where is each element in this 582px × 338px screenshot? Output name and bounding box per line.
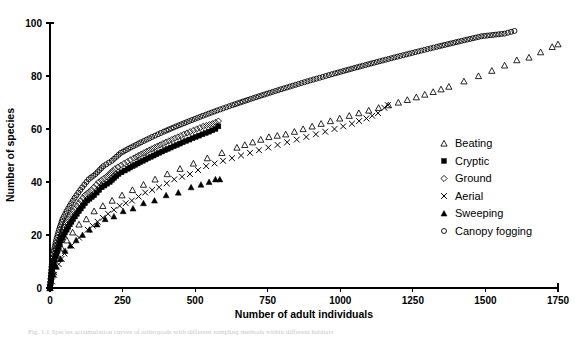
data-point-open-triangle [164, 171, 170, 177]
legend-label: Canopy fogging [455, 225, 532, 237]
y-tick-label: 40 [31, 177, 43, 188]
data-point-open-diamond [215, 118, 221, 124]
data-point-open-circle [505, 30, 510, 35]
data-point-open-triangle [489, 68, 495, 74]
data-point-filled-triangle [188, 184, 194, 190]
data-point-open-triangle [234, 144, 240, 150]
legend-label: Aerial [455, 190, 483, 202]
data-point-open-triangle [514, 57, 520, 63]
data-point-open-diamond [206, 121, 212, 127]
data-point-open-triangle [204, 155, 210, 161]
data-point-open-triangle [441, 140, 447, 146]
data-point-cross-x [256, 147, 262, 153]
data-point-cross-x [369, 113, 375, 119]
data-point-cross-x [136, 194, 142, 200]
legend-item-canopy-fogging[interactable]: Canopy fogging [442, 225, 533, 237]
data-point-open-diamond [441, 175, 447, 181]
data-point-cross-x [187, 171, 193, 177]
data-point-open-triangle [413, 94, 419, 100]
data-point-open-triangle [346, 113, 352, 119]
data-point-open-diamond [200, 123, 206, 129]
legend-marker-open-triangle-icon [441, 140, 447, 146]
data-point-open-triangle [91, 208, 97, 214]
data-point-open-triangle [376, 105, 382, 111]
data-point-filled-triangle [120, 208, 126, 214]
x-tick-label: 750 [259, 295, 276, 306]
y-tick-label: 100 [25, 18, 42, 29]
data-point-open-triangle [526, 54, 532, 60]
data-point-open-triangle [250, 139, 256, 145]
data-point-filled-triangle [152, 198, 158, 204]
data-point-open-triangle [274, 133, 280, 139]
data-point-open-diamond [169, 137, 175, 143]
data-point-open-triangle [461, 78, 467, 84]
data-point-cross-x [313, 131, 319, 137]
y-tick-label: 60 [31, 124, 43, 135]
data-point-open-diamond [203, 122, 209, 128]
legend-label: Sweeping [455, 207, 503, 219]
data-point-open-diamond [108, 170, 114, 176]
data-point-open-triangle [404, 97, 410, 103]
y-axis-tick-labels: 020406080100 [25, 18, 42, 294]
legend-marker-filled-square-icon [442, 159, 447, 164]
legend-item-cryptic[interactable]: Cryptic [442, 155, 490, 167]
data-point-cross-x [364, 116, 370, 122]
x-tick-label: 500 [187, 295, 204, 306]
data-point-open-triangle [318, 121, 324, 127]
data-point-open-diamond [194, 126, 200, 132]
data-point-filled-square [442, 159, 447, 164]
data-point-cross-x [375, 110, 381, 116]
data-point-open-triangle [395, 99, 401, 105]
data-point-open-circle [326, 73, 331, 78]
legend-item-beating[interactable]: Beating [441, 137, 492, 149]
x-tick-label: 1250 [402, 295, 425, 306]
data-point-open-circle [221, 106, 226, 111]
data-point-open-triangle [283, 131, 289, 137]
x-tick-label: 0 [47, 295, 53, 306]
data-point-filled-triangle [140, 200, 146, 206]
data-point-cross-x [111, 207, 117, 213]
data-point-open-triangle [366, 107, 372, 113]
data-point-filled-triangle [217, 176, 223, 182]
data-point-open-triangle [177, 166, 183, 172]
data-point-cross-x [105, 211, 111, 217]
data-point-open-triangle [76, 221, 82, 227]
y-tick-label: 0 [36, 283, 42, 294]
figure-container: 02505007501000125015001750 020406080100 … [0, 0, 582, 338]
data-point-cross-x [294, 137, 300, 143]
data-point-open-triangle [219, 150, 225, 156]
legend-item-ground[interactable]: Ground [441, 172, 492, 184]
data-point-open-triangle [291, 129, 297, 135]
data-point-open-circle [224, 105, 229, 110]
data-point-cross-x [303, 134, 309, 140]
data-point-open-triangle [119, 192, 125, 198]
series-aerial [47, 102, 391, 291]
data-point-filled-triangle [198, 182, 204, 188]
data-point-open-diamond [197, 125, 203, 131]
data-point-cross-x [220, 158, 226, 164]
x-tick-label: 1500 [474, 295, 497, 306]
legend-item-sweeping[interactable]: Sweeping [441, 207, 503, 219]
data-point-open-circle [227, 104, 232, 109]
data-point-open-circle [512, 28, 517, 33]
data-point-open-circle [314, 76, 319, 81]
legend-marker-cross-x-icon [441, 193, 447, 199]
data-point-open-circle [218, 107, 223, 112]
data-point-cross-x [123, 200, 129, 206]
data-point-cross-x [247, 150, 253, 156]
data-point-open-diamond [209, 121, 215, 127]
data-point-cross-x [203, 163, 209, 169]
data-point-open-triangle [537, 49, 543, 55]
data-point-open-diamond [181, 131, 187, 137]
data-point-open-diamond [172, 135, 178, 141]
data-point-cross-x [229, 155, 235, 161]
legend-item-aerial[interactable]: Aerial [441, 190, 483, 202]
data-point-open-triangle [70, 229, 76, 235]
legend-label: Beating [455, 137, 492, 149]
data-point-cross-x [171, 176, 177, 182]
x-axis-tick-labels: 02505007501000125015001750 [47, 295, 569, 306]
data-point-filled-triangle [67, 243, 73, 249]
data-point-cross-x [149, 187, 155, 193]
data-point-cross-x [284, 139, 290, 145]
data-point-cross-x [156, 184, 162, 190]
